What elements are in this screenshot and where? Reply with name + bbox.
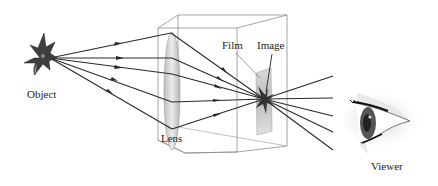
- object-flower: [24, 33, 57, 75]
- viewer-eye: [344, 93, 420, 154]
- outgoing-rays: [264, 76, 333, 150]
- camera-optics-diagram: Object Lens Film Image Viewer: [0, 0, 438, 186]
- lens-label: Lens: [161, 132, 182, 144]
- image-label: Image: [257, 39, 284, 51]
- object-label: Object: [27, 88, 56, 100]
- incoming-rays: [50, 33, 172, 129]
- film-label: Film: [222, 39, 243, 51]
- viewer-label: Viewer: [371, 160, 403, 172]
